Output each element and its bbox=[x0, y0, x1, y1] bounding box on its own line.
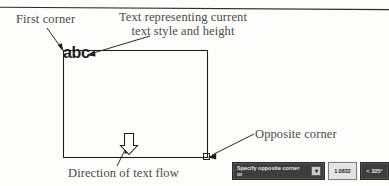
angle-input-field[interactable]: < 325° bbox=[360, 162, 389, 180]
callout-text-style-line2: text style and height bbox=[119, 25, 247, 39]
figure-canvas: abc First corner Text representing curre… bbox=[0, 0, 389, 186]
text-flow-down-arrow-icon bbox=[121, 134, 138, 155]
sample-text-abc: abc bbox=[63, 45, 90, 61]
callout-text-style: Text representing current text style and… bbox=[119, 11, 247, 38]
length-value: 1.0832 bbox=[334, 168, 351, 174]
mtext-boundary-rectangle bbox=[64, 51, 208, 158]
crosshair-pickbox bbox=[204, 154, 210, 160]
angle-prefix: < bbox=[366, 168, 369, 174]
leader-text-style bbox=[87, 36, 151, 56]
length-input-field[interactable]: 1.0832 bbox=[328, 162, 357, 180]
dynamic-input-prompt: Specify opposite corner or ▾ bbox=[232, 162, 325, 180]
callout-first-corner: First corner bbox=[16, 13, 75, 27]
leader-first-corner bbox=[47, 28, 64, 52]
angle-value: 325° bbox=[372, 168, 383, 174]
callout-text-flow: Direction of text flow bbox=[68, 167, 179, 181]
dynamic-input-bar[interactable]: Specify opposite corner or ▾ 1.0832 < 32… bbox=[232, 162, 389, 180]
chevron-down-icon[interactable]: ▾ bbox=[311, 166, 321, 176]
callout-opposite-corner: Opposite corner bbox=[255, 128, 337, 142]
callout-text-style-line1: Text representing current bbox=[119, 10, 247, 24]
dynamic-input-prompt-text: Specify opposite corner or bbox=[237, 165, 306, 177]
leader-opposite-corner bbox=[208, 134, 255, 159]
